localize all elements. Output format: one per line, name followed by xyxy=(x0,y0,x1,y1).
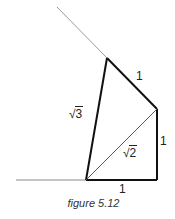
radicand: 2 xyxy=(129,145,138,159)
label-top-edge: 1 xyxy=(136,70,143,82)
figure-caption: figure 5.12 xyxy=(0,197,175,209)
extension-line-top xyxy=(57,7,107,58)
radicand: 3 xyxy=(75,106,84,120)
figure-drawing xyxy=(0,0,175,219)
label-diagonal-sqrt2: √2 xyxy=(123,145,137,159)
geometry-figure: 1 1 1 √2 √3 figure 5.12 xyxy=(0,0,175,219)
label-right-edge: 1 xyxy=(160,135,167,147)
edge-top xyxy=(107,58,157,109)
label-bottom-edge: 1 xyxy=(119,183,126,195)
label-left-edge-sqrt3: √3 xyxy=(69,106,83,120)
